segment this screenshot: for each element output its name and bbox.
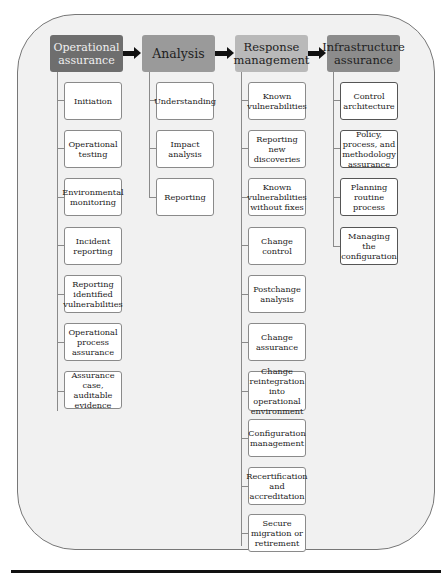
card-configuration-management: Configuration management	[248, 419, 306, 457]
arrow-right-icon	[123, 51, 135, 56]
card-reporting: Reporting	[156, 178, 214, 216]
card-recertification-accreditation: Recertification and accreditation	[248, 467, 306, 505]
connector-line	[241, 438, 248, 439]
card-known-vulnerabilities-without-fixes: Known vulnerabilities without fixes	[248, 178, 306, 216]
card-policy-process-methodology: Policy, process, and methodology assuran…	[340, 130, 398, 168]
connector-line	[57, 245, 64, 246]
connector-line	[241, 391, 248, 392]
connector-line	[149, 197, 156, 198]
connector-line	[333, 197, 340, 198]
connector-line	[241, 533, 248, 534]
card-assurance-case: Assurance case, auditable evidence	[64, 371, 122, 409]
card-reporting-new-discoveries: Reporting new discoveries	[248, 130, 306, 168]
connector-line	[241, 294, 248, 295]
header-analysis: Analysis	[142, 35, 215, 72]
arrow-right-icon	[308, 51, 320, 56]
connector-line	[57, 100, 64, 101]
connector-line	[57, 148, 64, 149]
card-secure-migration-retirement: Secure migration or retirement	[248, 514, 306, 552]
card-impact-analysis: Impact analysis	[156, 130, 214, 168]
connector-line	[57, 391, 64, 392]
connector-line	[333, 148, 340, 149]
connector-line	[149, 72, 150, 198]
card-planning-routine-process: Planning routine process	[340, 178, 398, 216]
connector-line	[241, 148, 248, 149]
card-operational-process-assurance: Operational process assurance	[64, 323, 122, 361]
card-understanding: Understanding	[156, 82, 214, 120]
card-reporting-identified-vulnerabilities: Reporting identified vulnerabilities	[64, 275, 122, 313]
bottom-rule	[11, 570, 441, 573]
connector-line	[333, 246, 340, 247]
card-control-architecture: Control architecture	[340, 82, 398, 120]
card-change-control: Change control	[248, 227, 306, 265]
card-postchange-analysis: Postchange analysis	[248, 275, 306, 313]
card-change-reintegration: Change reintegration into operational en…	[248, 371, 306, 411]
card-incident-reporting: Incident reporting	[64, 227, 122, 265]
connector-line	[241, 342, 248, 343]
connector-line	[149, 148, 156, 149]
connector-line	[241, 72, 242, 546]
header-response-management: Response management	[235, 35, 308, 72]
connector-line	[57, 72, 58, 411]
card-initiation: Initiation	[64, 82, 122, 120]
connector-line	[333, 72, 334, 247]
header-operational-assurance: Operational assurance	[50, 35, 123, 72]
header-infrastructure-assurance: Infrastructure assurance	[327, 35, 400, 72]
connector-line	[333, 100, 340, 101]
card-operational-testing: Operational testing	[64, 130, 122, 168]
card-change-assurance: Change assurance	[248, 323, 306, 361]
card-known-vulnerabilities: Known vulnerabilities	[248, 82, 306, 120]
card-environmental-monitoring: Environmental monitoring	[64, 178, 122, 216]
card-managing-configuration: Managing the configuration	[340, 227, 398, 265]
connector-line	[241, 245, 248, 246]
arrow-right-icon	[215, 51, 228, 56]
connector-line	[57, 342, 64, 343]
